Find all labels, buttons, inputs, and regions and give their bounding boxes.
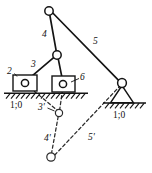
label-ground-left: 1;0 [10,100,22,110]
dashed-mid-joint [55,109,62,116]
slider-left-pin-joint [21,79,28,86]
slider-right-pin-joint [59,80,66,87]
slider-block-left [13,75,37,91]
kinematic-diagram-canvas: 2 3 4 5 6 3' 4' 5' 1;0 1;0 [0,0,152,173]
label-link-3: 3 [30,59,36,69]
solid-links-group [27,13,119,81]
right-pivot-joint [118,79,127,88]
label-link-3-prime: 3' [37,102,46,112]
leader-line-link-3-prime [48,108,55,111]
link-4-prime-line [52,117,59,153]
dashed-low-joint [47,153,55,161]
label-ground-right: 1;0 [113,110,125,120]
label-link-5: 5 [93,36,98,46]
slider-block-right [52,76,75,92]
ground-right-hatching [105,103,144,108]
link-5-line [53,13,119,80]
fixed-pin-support-right [103,79,146,109]
ground-left-hatching [6,93,85,98]
label-link-5-prime: 5' [88,132,96,142]
link-5-prime-line [55,87,120,156]
label-link-4: 4 [42,29,47,39]
link-4-line [50,15,56,51]
mid-joint [53,51,61,59]
kinematic-diagram-figure: 2 3 4 5 6 3' 4' 5' 1;0 1;0 [0,0,152,173]
label-link-4-prime: 4' [44,133,52,143]
ground-left-group [4,93,88,98]
apex-joint [45,7,53,15]
label-link-2: 2 [7,66,12,76]
label-link-6: 6 [80,72,85,82]
